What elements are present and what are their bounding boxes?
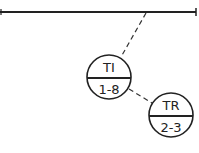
instrument-tr-loop: 2-3: [160, 120, 181, 135]
instrument-ti-loop: 1-8: [98, 82, 119, 97]
instrument-tr-function: TR: [162, 98, 180, 113]
instrument-ti[interactable]: TI 1-8: [87, 55, 131, 99]
signal-line-process-to-ti: [121, 13, 146, 57]
instrument-tr[interactable]: TR 2-3: [149, 93, 193, 137]
diagram-canvas: TI 1-8 TR 2-3: [0, 0, 199, 153]
signal-line-ti-to-tr: [129, 89, 152, 103]
instrument-ti-function: TI: [102, 60, 115, 75]
